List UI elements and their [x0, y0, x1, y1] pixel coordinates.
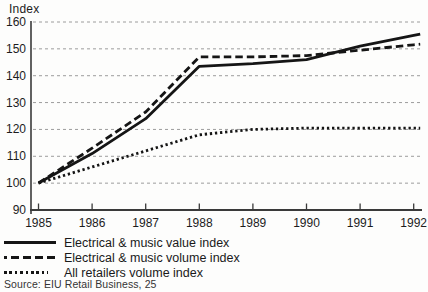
source-note: Source: EIU Retail Business, 25: [4, 278, 157, 290]
svg-text:150: 150: [6, 42, 26, 56]
svg-text:110: 110: [7, 149, 26, 163]
svg-text:1991: 1991: [347, 216, 374, 230]
legend-label: Electrical & music volume index: [64, 251, 240, 265]
svg-text:1985: 1985: [25, 216, 52, 230]
retail-index-chart-figure: Index 1985198619871988198919901991199290…: [0, 0, 428, 292]
legend-label: Electrical & music value index: [64, 236, 229, 250]
svg-text:130: 130: [6, 96, 26, 110]
dashed-line-swatch: [4, 256, 56, 259]
legend-item-value-index: Electrical & music value index: [4, 235, 240, 250]
solid-line-swatch: [4, 241, 56, 244]
svg-text:120: 120: [6, 122, 26, 136]
svg-text:100: 100: [6, 176, 26, 190]
svg-text:1989: 1989: [240, 216, 267, 230]
svg-text:1988: 1988: [186, 216, 213, 230]
svg-text:1987: 1987: [132, 216, 159, 230]
svg-text:1992: 1992: [400, 216, 427, 230]
svg-text:1986: 1986: [79, 216, 106, 230]
legend-item-volume-index: Electrical & music volume index: [4, 250, 240, 265]
svg-text:1990: 1990: [293, 216, 320, 230]
chart-legend: Electrical & music value index Electrica…: [4, 235, 240, 280]
dotted-line-swatch: [4, 271, 48, 274]
svg-text:90: 90: [13, 203, 27, 217]
svg-text:160: 160: [6, 15, 26, 29]
svg-text:140: 140: [6, 69, 26, 83]
